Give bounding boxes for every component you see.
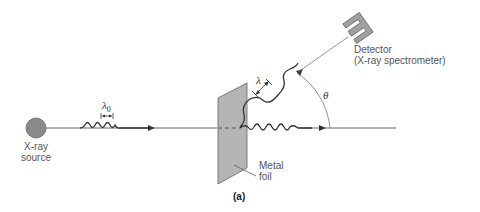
- scattered-wavelength-symbol: λ: [256, 74, 261, 86]
- detector-label-line2: (X-ray spectrometer): [354, 55, 446, 66]
- xray-source-label: X-ray source: [18, 141, 54, 163]
- detector-line: [298, 37, 348, 72]
- incident-wave: [80, 123, 150, 129]
- incident-arrow-icon: [148, 125, 155, 131]
- incident-wavelength-symbol: λ0: [102, 99, 111, 114]
- detector-label: Detector (X-ray spectrometer): [354, 44, 446, 66]
- angle-symbol: θ: [323, 89, 328, 101]
- metal-foil-label: Metal foil: [259, 160, 283, 182]
- detector-label-line1: Detector: [354, 44, 446, 55]
- transmitted-wave: [240, 124, 312, 130]
- transmitted-arrow-icon: [319, 125, 326, 131]
- detector-icon: [343, 12, 373, 43]
- scattered-wave: [240, 63, 298, 127]
- compton-diagram: [0, 0, 480, 212]
- metal-foil: [218, 83, 247, 184]
- source-label-line1: X-ray: [18, 141, 54, 152]
- foil-label-line1: Metal: [259, 160, 283, 171]
- xray-source-icon: [26, 118, 46, 138]
- foil-label-line2: foil: [259, 171, 283, 182]
- figure-caption: (a): [233, 191, 245, 202]
- source-label-line2: source: [18, 152, 54, 163]
